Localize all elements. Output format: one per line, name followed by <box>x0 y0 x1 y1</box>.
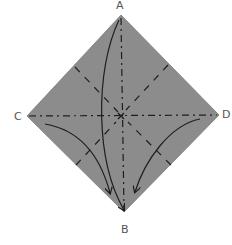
vertex-label-a: A <box>116 0 124 11</box>
vertex-label-c: C <box>14 111 22 122</box>
vertex-label-b: B <box>121 224 129 235</box>
origami-diagram <box>0 0 232 245</box>
vertex-label-d: D <box>222 109 230 120</box>
